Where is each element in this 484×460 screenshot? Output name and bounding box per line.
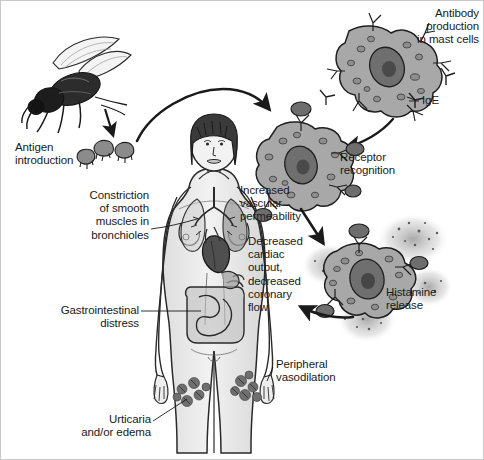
anaphylaxis-diagram: Antigen introduction Antibody production… <box>0 0 484 460</box>
label-decreased-cardiac-output: Decreased cardiac output, decreased coro… <box>248 235 303 314</box>
bee-icon <box>22 37 131 133</box>
sting-arrow-icon <box>105 109 113 135</box>
label-gastrointestinal-distress: Gastrointestinal distress <box>27 304 139 330</box>
antigen-particle-icon <box>77 140 134 169</box>
label-peripheral-vasodilation: Peripheral vasodilation <box>276 358 336 384</box>
label-histamine-release: Histamine release <box>386 286 436 312</box>
label-ige: IgE <box>422 94 439 107</box>
label-increased-vascular-permeability: Increased vascular permeability <box>240 184 301 224</box>
label-receptor-recognition: Receptor recognition <box>340 151 395 177</box>
label-constriction-bronchioles: Constriction of smooth muscles in bronch… <box>41 189 149 242</box>
label-antibody-production: Antibody production in mast cells <box>369 7 479 47</box>
degranulation-arrow-icon <box>301 209 323 243</box>
label-urticaria-edema: Urticaria and/or edema <box>31 413 151 439</box>
label-antigen-introduction: Antigen introduction <box>15 141 73 167</box>
mast-cell-icon <box>301 213 453 343</box>
